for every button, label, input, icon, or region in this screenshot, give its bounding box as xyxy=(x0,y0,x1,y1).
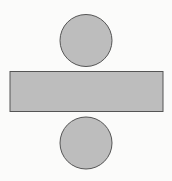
bottom-circle-face xyxy=(60,117,112,169)
cylinder-net-diagram xyxy=(0,0,172,181)
lateral-surface-rectangle xyxy=(10,72,163,112)
diagram-svg xyxy=(0,0,172,181)
top-circle-face xyxy=(60,15,112,67)
